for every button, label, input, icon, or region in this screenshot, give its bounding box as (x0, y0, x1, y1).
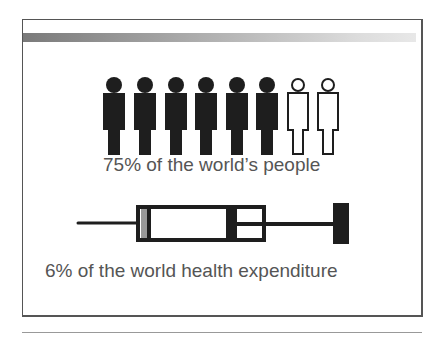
footer-divider (22, 332, 422, 333)
slide-frame: 75% of the world’s people 6% of the worl… (22, 19, 423, 317)
person-icon-outline (318, 79, 338, 154)
syringe-icon (78, 203, 349, 244)
person-icon-filled (134, 77, 156, 155)
person-icon-outline (288, 79, 308, 154)
expenditure-caption: 6% of the world health expenditure (45, 260, 338, 282)
person-icon-filled (226, 77, 248, 155)
person-icon-filled (256, 77, 278, 155)
person-icon-filled (195, 77, 217, 155)
person-icon-filled (103, 77, 125, 155)
person-icon-filled (165, 77, 187, 155)
people-caption: 75% of the world’s people (103, 154, 320, 176)
